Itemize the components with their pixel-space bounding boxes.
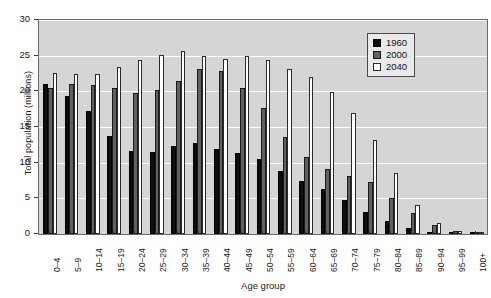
x-tick-label-80–84: 80–84: [394, 248, 403, 272]
y-tick-label-5: 5: [25, 192, 30, 202]
y-tick-label-30: 30: [19, 14, 30, 24]
x-tick-mark: [49, 231, 50, 234]
x-tick-label-65–69: 65–69: [330, 248, 339, 272]
bar-2040-15–19: [117, 67, 122, 234]
bar-2040-5–9: [74, 74, 79, 234]
x-tick-label-55–59: 55–59: [287, 248, 296, 272]
x-tick-mark: [91, 231, 92, 234]
x-tick-mark: [113, 231, 114, 234]
legend-label: 2000: [386, 50, 407, 60]
bar-2040-25–29: [159, 55, 164, 234]
legend-swatch-icon-2040: [373, 63, 381, 71]
y-axis-tick-labels: 051015202530: [0, 0, 34, 298]
bar-2040-65–69: [330, 92, 335, 234]
x-tick-label-75–79: 75–79: [373, 248, 382, 272]
bar-2040-0–4: [53, 73, 58, 234]
x-axis-tick-labels: 0–45–910–1415–1920–2425–2930–3435–3940–4…: [38, 234, 488, 280]
x-tick-label-50–54: 50–54: [266, 248, 275, 272]
bar-2040-45–49: [245, 56, 250, 234]
x-tick-label-30–34: 30–34: [181, 248, 190, 272]
x-tick-label-95–99: 95–99: [458, 248, 467, 272]
x-tick-label-70–74: 70–74: [351, 248, 360, 272]
x-tick-label-100+: 100+: [479, 253, 488, 272]
x-tick-mark: [134, 231, 135, 234]
bar-2040-90–94: [437, 223, 442, 234]
legend-swatch-icon-1960: [373, 39, 381, 47]
bar-2040-40–44: [223, 59, 228, 234]
x-tick-mark: [155, 231, 156, 234]
x-axis-title: Age group: [38, 280, 488, 291]
y-tick-label-15: 15: [19, 121, 30, 131]
bar-2040-85–89: [415, 205, 420, 234]
bar-2040-10–14: [95, 74, 100, 235]
bars-layer: [39, 20, 487, 234]
x-tick-mark: [326, 231, 327, 234]
x-tick-mark: [262, 231, 263, 234]
x-tick-mark: [283, 231, 284, 234]
x-tick-mark: [433, 231, 434, 234]
y-tick-label-0: 0: [25, 228, 30, 238]
bar-2040-20–24: [138, 60, 143, 234]
x-tick-mark: [198, 231, 199, 234]
y-tick-label-20: 20: [19, 85, 30, 95]
x-tick-mark: [390, 231, 391, 234]
bar-2040-75–79: [373, 140, 378, 234]
x-tick-mark: [177, 231, 178, 234]
x-tick-mark: [411, 231, 412, 234]
x-tick-label-60–64: 60–64: [309, 248, 318, 272]
y-tick-label-10: 10: [19, 157, 30, 167]
bar-2040-30–34: [181, 51, 186, 234]
x-tick-label-5–9: 5–9: [74, 258, 83, 272]
bar-2040-80–84: [394, 173, 399, 234]
x-tick-label-85–89: 85–89: [415, 248, 424, 272]
bar-2040-60–64: [309, 77, 314, 234]
legend-label: 1960: [386, 38, 407, 48]
x-tick-mark: [70, 231, 71, 234]
x-tick-label-45–49: 45–49: [245, 248, 254, 272]
bar-2040-70–74: [351, 113, 356, 234]
x-tick-label-10–14: 10–14: [95, 248, 104, 272]
legend-swatch-icon-2000: [373, 51, 381, 59]
bar-2040-55–59: [287, 69, 292, 234]
y-tick-label-25: 25: [19, 50, 30, 60]
x-tick-mark: [454, 231, 455, 234]
chart-legend: 196020002040: [367, 33, 415, 77]
x-tick-label-40–44: 40–44: [223, 248, 232, 272]
legend-item-2000[interactable]: 2000: [373, 49, 407, 61]
x-tick-mark: [241, 231, 242, 234]
legend-item-1960[interactable]: 1960: [373, 37, 407, 49]
x-tick-label-35–39: 35–39: [202, 248, 211, 272]
x-tick-mark: [369, 231, 370, 234]
x-tick-label-0–4: 0–4: [53, 258, 62, 272]
x-tick-label-20–24: 20–24: [138, 248, 147, 272]
x-tick-label-25–29: 25–29: [159, 248, 168, 272]
x-tick-label-90–94: 90–94: [437, 248, 446, 272]
x-tick-mark: [475, 231, 476, 234]
legend-label: 2040: [386, 62, 407, 72]
x-tick-mark: [305, 231, 306, 234]
bar-2040-50–54: [266, 60, 271, 234]
x-tick-mark: [219, 231, 220, 234]
legend-item-2040[interactable]: 2040: [373, 61, 407, 73]
plot-area: [38, 19, 488, 235]
x-tick-label-15–19: 15–19: [117, 248, 126, 272]
x-tick-mark: [347, 231, 348, 234]
population-by-age-group-bar-chart: Total population (millions) 051015202530…: [0, 0, 491, 298]
bar-2040-35–39: [202, 56, 207, 234]
